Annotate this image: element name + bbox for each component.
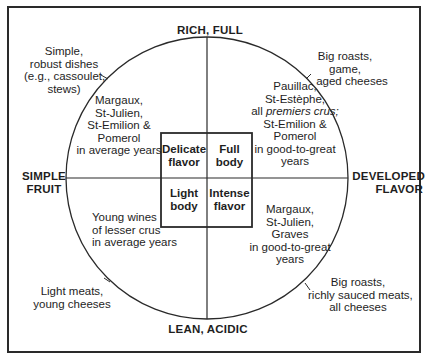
food-line: stews)	[24, 83, 104, 96]
wine-line: St-Emilion &	[250, 118, 340, 131]
wine-line: in good-to-great	[248, 241, 332, 254]
food-line: richly sauced meats,	[308, 289, 408, 302]
food-line: young cheeses	[32, 298, 112, 311]
food-line: robust dishes	[24, 58, 104, 71]
wine-line: St-Julien,	[248, 216, 332, 229]
wines-bottom-left: Young wines of lesser crus in average ye…	[92, 211, 178, 249]
wine-line-italic: premiers crus;	[266, 105, 339, 117]
axis-label-right-line2: FLAVOR	[345, 183, 425, 196]
wine-line: Margaux,	[248, 203, 332, 216]
wines-bottom-right: Margaux, St-Julien, Graves in good-to-gr…	[248, 203, 332, 266]
box-text: Full	[207, 143, 252, 156]
axis-label-left: SIMPLE FRUIT	[20, 170, 68, 196]
axis-label-top: RICH, FULL	[177, 24, 237, 37]
wine-line: all premiers crus;	[250, 105, 340, 118]
wine-line: Pomerol	[250, 130, 340, 143]
axis-label-left-line2: FRUIT	[20, 183, 68, 196]
wine-line: Pomerol	[76, 132, 162, 145]
food-line: game,	[300, 63, 390, 76]
wine-line: in good-to-great	[250, 143, 340, 156]
box-light-body: Light body	[161, 187, 207, 212]
food-line: all cheeses	[308, 301, 408, 314]
food-bottom-right: Big roasts, richly sauced meats, all che…	[308, 276, 408, 314]
wine-line: of lesser crus	[92, 224, 178, 237]
wine-line-prefix: all	[251, 105, 266, 117]
food-bottom-left: Light meats, young cheeses	[32, 285, 112, 310]
axis-label-bottom: LEAN, ACIDIC	[168, 323, 248, 336]
wine-line: Young wines	[92, 211, 178, 224]
wine-line: years	[250, 155, 340, 168]
wine-line: years	[248, 253, 332, 266]
wine-line: Margaux,	[76, 94, 162, 107]
wine-line: Graves	[248, 228, 332, 241]
food-line: (e.g., cassoulet,	[24, 70, 104, 83]
box-text: flavor	[161, 156, 207, 169]
food-top-right: Big roasts, game, aged cheeses	[300, 50, 390, 88]
wine-line: St-Estèphe,	[250, 93, 340, 106]
axis-label-right-line1: DEVELOPED	[345, 170, 425, 183]
box-text: flavor	[207, 200, 252, 213]
wine-line: St-Julien,	[76, 107, 162, 120]
box-delicate-flavor: Delicate flavor	[161, 143, 207, 168]
wine-line: in average years	[92, 236, 178, 249]
food-line: Big roasts,	[300, 50, 390, 63]
box-full-body: Full body	[207, 143, 252, 168]
food-line: Big roasts,	[308, 276, 408, 289]
food-top-left: Simple, robust dishes (e.g., cassoulet, …	[24, 45, 104, 95]
box-text: Light	[161, 187, 207, 200]
food-line: Light meats,	[32, 285, 112, 298]
box-text: Delicate	[161, 143, 207, 156]
axis-label-left-line1: SIMPLE	[20, 170, 68, 183]
box-text: Intense	[207, 187, 252, 200]
wines-top-right: Pauillac, St-Estèphe, all premiers crus;…	[250, 80, 340, 168]
wines-top-left: Margaux, St-Julien, St-Emilion & Pomerol…	[76, 94, 162, 157]
food-line: aged cheeses	[300, 75, 390, 88]
wine-line: St-Emilion &	[76, 119, 162, 132]
wine-line: in average years	[76, 144, 162, 157]
box-intense-flavor: Intense flavor	[207, 187, 252, 212]
axis-label-right: DEVELOPED FLAVOR	[345, 170, 425, 196]
box-text: body	[207, 156, 252, 169]
food-line: Simple,	[24, 45, 104, 58]
